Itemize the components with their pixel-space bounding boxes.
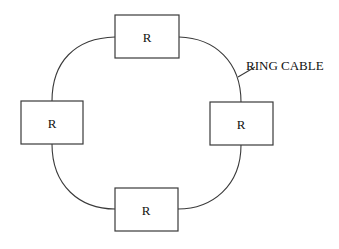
ring-network-diagram: R R R R RING CABLE bbox=[0, 0, 339, 249]
node-top: R bbox=[115, 15, 179, 58]
cable-right-bottom bbox=[178, 145, 241, 209]
node-right-label: R bbox=[237, 117, 246, 132]
node-left-label: R bbox=[48, 116, 57, 131]
node-right: R bbox=[210, 102, 273, 145]
cable-left-bottom bbox=[52, 144, 115, 209]
node-left: R bbox=[21, 101, 83, 144]
node-bottom-label: R bbox=[142, 203, 151, 218]
node-top-label: R bbox=[143, 30, 152, 45]
cable-top-left bbox=[52, 37, 115, 101]
cable-top-right bbox=[179, 37, 241, 102]
node-bottom: R bbox=[115, 188, 178, 231]
ring-cable-label: RING CABLE bbox=[246, 58, 324, 73]
